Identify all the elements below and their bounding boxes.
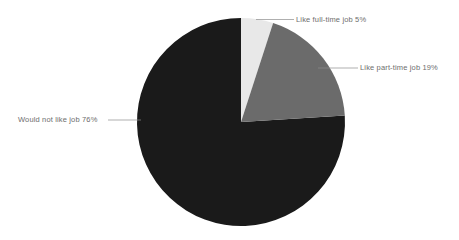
pie-label-like-part-time-job: Like part-time job 19% bbox=[360, 63, 438, 73]
pie-chart: Like full-time job 5% Like part-time job… bbox=[0, 0, 459, 240]
pie-label-would-not-like-job: Would not like job 76% bbox=[18, 115, 97, 125]
pie-label-like-full-time-job: Like full-time job 5% bbox=[296, 15, 366, 25]
